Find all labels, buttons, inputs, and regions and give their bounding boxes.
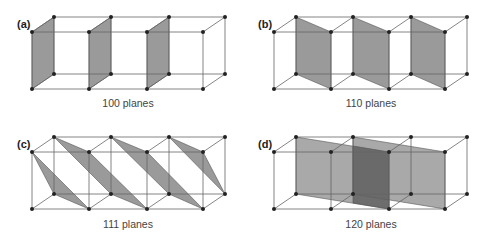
panel-d-lattice	[272, 135, 469, 211]
panel-d-label: (d)	[258, 138, 272, 150]
panel-d-caption: 120 planes	[301, 218, 441, 230]
plane-110	[296, 17, 445, 89]
panel-a-caption: 100 planes	[58, 97, 198, 109]
panel-a-label: (a)	[17, 18, 30, 30]
panel-c-label: (c)	[17, 138, 30, 150]
plane-100	[32, 17, 169, 89]
plane-111	[32, 137, 225, 209]
panel-b-lattice	[272, 15, 469, 91]
panel-a-lattice	[30, 15, 227, 91]
panel-b-caption: 110 planes	[301, 97, 441, 109]
panel-b-label: (b)	[258, 18, 272, 30]
panel-c-caption: 111 planes	[58, 218, 198, 230]
crystal-planes-diagram	[0, 0, 495, 245]
plane-120	[296, 137, 445, 209]
panel-c-lattice	[30, 135, 227, 211]
